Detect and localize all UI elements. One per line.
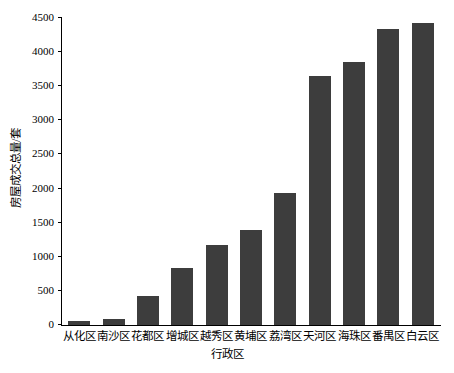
y-axis-title: 房屋成交总量/套 [7,108,23,228]
bar [377,29,399,325]
bar [274,193,296,325]
y-tick-label: 3500 [32,78,54,93]
plot-area: 050010001500200025003000350040004500 [62,18,440,325]
bar [309,76,331,325]
x-axis-title: 行政区 [0,345,454,361]
y-tick-label: 4000 [32,44,54,59]
x-tick-label: 增城区 [165,328,199,344]
y-tick-label: 2000 [32,181,54,196]
x-tick-label: 花都区 [131,328,165,344]
y-tick-label: 1500 [32,215,54,230]
x-axis-line [61,325,441,326]
x-tick-label: 天河区 [303,328,337,344]
x-tick-label: 越秀区 [199,328,233,344]
y-tick-label: 2500 [32,146,54,161]
bar [412,23,434,325]
x-tick-label: 海珠区 [337,328,371,344]
x-tick-label: 从化区 [62,328,96,344]
bar [240,230,262,325]
bar-chart-figure: 050010001500200025003000350040004500 从化区… [0,0,454,373]
y-tick-label: 0 [49,317,55,332]
bar [137,296,159,325]
y-tick-label: 500 [38,283,55,298]
bar-series [62,18,440,325]
bar [206,245,228,325]
x-tick-label: 番禺区 [371,328,405,344]
x-tick-label: 南沙区 [96,328,130,344]
bar [103,319,125,325]
bar [343,62,365,325]
bar [171,268,193,325]
x-tick-label: 白云区 [406,328,440,344]
y-tick-label: 4500 [32,10,54,25]
x-tick-label: 荔湾区 [268,328,302,344]
y-tick-label: 3000 [32,112,54,127]
bar [68,321,90,325]
y-tick-label: 1000 [32,249,54,264]
x-tick-label: 黄埔区 [234,328,268,344]
